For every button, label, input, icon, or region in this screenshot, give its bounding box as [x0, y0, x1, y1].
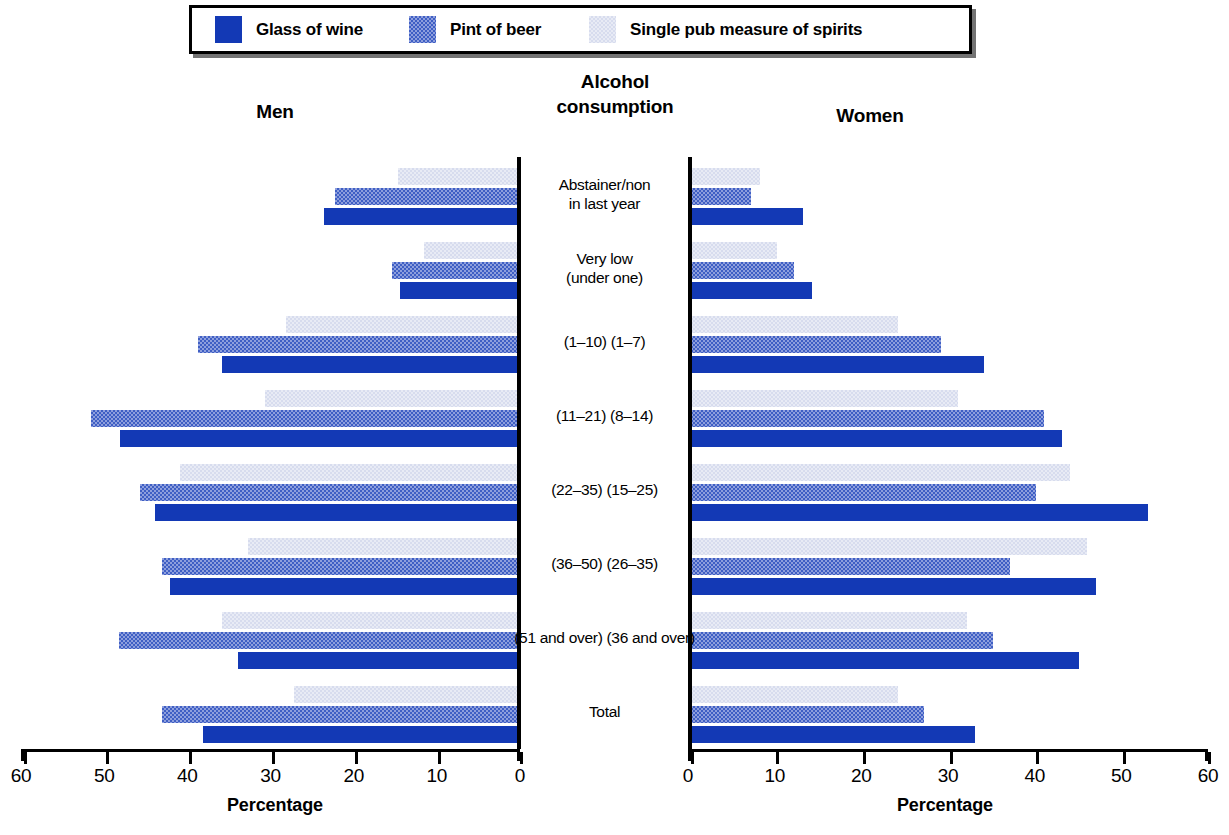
category-label-line2: in last year: [509, 195, 700, 214]
legend-label-spirits: Single pub measure of spirits: [630, 20, 862, 40]
bar-left-spirits: [424, 242, 517, 259]
bar-group: [691, 534, 1208, 608]
bar-right-spirits: [691, 538, 1087, 555]
bar-left-beer: [140, 484, 517, 501]
bar-left-beer: [392, 262, 517, 279]
bar-right-wine: [691, 356, 984, 373]
axis-tick-label: 0: [498, 765, 542, 787]
bar-left-spirits: [248, 538, 517, 555]
axis-tick-label: 10: [753, 765, 797, 787]
x-axis-title-men: Percentage: [150, 795, 400, 816]
plot-panel-men: [21, 157, 517, 749]
bar-right-beer: [691, 410, 1044, 427]
category-label: (36–50) (26–35): [509, 555, 700, 574]
bar-right-beer: [691, 262, 794, 279]
axis-tick-label: 60: [1186, 765, 1229, 787]
category-label-line1: (36–50) (26–35): [509, 555, 700, 574]
bar-left-wine: [238, 652, 517, 669]
bar-left-wine: [400, 282, 517, 299]
axis-tick-label: 30: [926, 765, 970, 787]
bar-left-spirits: [265, 390, 517, 407]
bar-right-beer: [691, 484, 1036, 501]
bar-right-beer: [691, 706, 924, 723]
category-label-line1: (22–35) (15–25): [509, 481, 700, 500]
bar-group: [691, 238, 1208, 312]
x-axis-men: [21, 749, 520, 761]
bar-right-wine: [691, 504, 1148, 521]
wine-swatch-icon: [215, 16, 242, 43]
bar-left-beer: [162, 706, 517, 723]
bar-left-beer: [162, 558, 517, 575]
bar-group: [21, 312, 517, 386]
bar-right-wine: [691, 282, 812, 299]
axis-tick: [1036, 752, 1039, 764]
bar-group: [21, 164, 517, 238]
bar-left-wine: [203, 726, 517, 743]
axis-tick: [950, 752, 953, 764]
bar-left-wine: [155, 504, 517, 521]
bar-group: [21, 386, 517, 460]
axis-tick-label: 60: [0, 765, 43, 787]
bar-left-wine: [120, 430, 517, 447]
category-label-line2: (under one): [509, 269, 700, 288]
axis-tick: [272, 752, 275, 764]
panel-heading-men: Men: [215, 100, 335, 125]
x-axis-title-women: Percentage: [820, 795, 1070, 816]
bar-left-beer: [335, 188, 517, 205]
category-label-line1: Abstainer/non: [509, 176, 700, 195]
category-label: (51 and over) (36 and over): [509, 629, 700, 648]
bar-left-beer: [198, 336, 517, 353]
axis-tick-label: 50: [1099, 765, 1143, 787]
chart-title-line1: Alcohol: [540, 70, 690, 95]
chart-title: Alcohol consumption: [540, 70, 690, 119]
legend-item-wine: Glass of wine: [215, 8, 363, 51]
bar-right-spirits: [691, 390, 958, 407]
bar-right-spirits: [691, 168, 760, 185]
category-label: Total: [509, 703, 700, 722]
axis-tick: [1208, 752, 1211, 764]
axis-tick: [24, 752, 27, 764]
axis-tick-label: 30: [249, 765, 293, 787]
category-label: (1–10) (1–7): [509, 333, 700, 352]
category-label: (22–35) (15–25): [509, 481, 700, 500]
bar-left-wine: [170, 578, 517, 595]
bar-left-spirits: [222, 612, 517, 629]
bar-left-spirits: [398, 168, 517, 185]
category-label-line1: Very low: [509, 250, 700, 269]
bar-group: [691, 312, 1208, 386]
bar-right-wine: [691, 208, 803, 225]
legend-item-beer: Pint of beer: [409, 8, 541, 51]
bar-group: [21, 238, 517, 312]
bar-right-beer: [691, 558, 1010, 575]
bar-right-beer: [691, 632, 993, 649]
bar-group: [691, 608, 1208, 682]
bar-group: [21, 460, 517, 534]
axis-tick-label: 50: [82, 765, 126, 787]
chart-root: Glass of wine Pint of beer Single pub me…: [0, 0, 1229, 835]
x-axis-women: [688, 749, 1208, 761]
category-label: Abstainer/nonin last year: [509, 176, 700, 214]
vertical-axis-women: [688, 157, 692, 749]
bar-left-spirits: [180, 464, 517, 481]
bar-right-wine: [691, 578, 1096, 595]
beer-swatch-icon: [409, 16, 436, 43]
category-label-line1: (51 and over) (36 and over): [509, 629, 700, 648]
axis-tick: [355, 752, 358, 764]
chart-title-line2: consumption: [540, 95, 690, 120]
category-label: Very low(under one): [509, 250, 700, 288]
chart-legend: Glass of wine Pint of beer Single pub me…: [189, 5, 972, 54]
bar-right-spirits: [691, 242, 777, 259]
axis-tick: [863, 752, 866, 764]
legend-label-wine: Glass of wine: [256, 20, 363, 40]
legend-item-spirits: Single pub measure of spirits: [589, 8, 862, 51]
bar-right-wine: [691, 430, 1062, 447]
axis-tick-label: 10: [415, 765, 459, 787]
bar-left-wine: [324, 208, 517, 225]
category-label-column: Abstainer/nonin last yearVery low(under …: [521, 157, 688, 749]
bar-right-beer: [691, 188, 751, 205]
bar-right-spirits: [691, 686, 898, 703]
bar-right-wine: [691, 652, 1079, 669]
axis-tick-label: 40: [165, 765, 209, 787]
bar-left-spirits: [294, 686, 517, 703]
legend-label-beer: Pint of beer: [450, 20, 541, 40]
